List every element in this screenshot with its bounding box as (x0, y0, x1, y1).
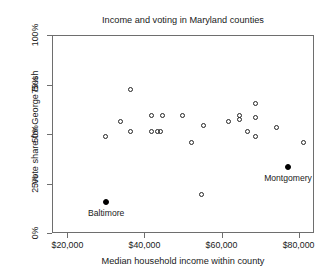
data-point (128, 129, 133, 134)
point-label-baltimore: Baltimore (88, 208, 124, 218)
data-point-baltimore (103, 199, 109, 205)
data-point (237, 117, 242, 122)
data-point (226, 119, 231, 124)
data-point (253, 101, 258, 106)
data-point (103, 134, 108, 139)
y-tick-mark (47, 184, 52, 185)
x-tick-mark (299, 233, 300, 238)
data-point-montgomery (285, 164, 291, 170)
x-tick-label: $20,000 (52, 240, 84, 250)
data-point (149, 129, 154, 134)
y-tick-mark (47, 35, 52, 36)
x-tick-mark (144, 233, 145, 238)
y-tick-mark (47, 233, 52, 234)
y-tick-label: 0% (0, 228, 44, 238)
x-tick-mark (67, 233, 68, 238)
data-points-layer: BaltimoreMontgomery (53, 36, 313, 232)
data-point (180, 113, 185, 118)
x-tick-label: $60,000 (206, 240, 238, 250)
data-point (118, 119, 123, 124)
x-tick-mark (222, 233, 223, 238)
data-point (149, 113, 154, 118)
data-point (199, 192, 204, 197)
x-tick-label: $80,000 (283, 240, 315, 250)
chart-figure: Income and voting in Maryland counties B… (0, 0, 330, 280)
y-axis-title: Vote share for George Bush (30, 38, 41, 218)
y-tick-mark (47, 134, 52, 135)
data-point (253, 134, 258, 139)
data-point (245, 129, 250, 134)
data-point (160, 113, 165, 118)
x-axis-title: Median household income within county (52, 256, 314, 267)
data-point (253, 115, 258, 120)
y-tick-mark (47, 85, 52, 86)
data-point (301, 140, 306, 145)
data-point (274, 125, 279, 130)
chart-title: Income and voting in Maryland counties (52, 15, 314, 26)
x-tick-label: $40,000 (129, 240, 161, 250)
point-label-montgomery: Montgomery (264, 173, 312, 183)
data-point (158, 129, 163, 134)
plot-area: BaltimoreMontgomery (52, 35, 314, 233)
data-point (128, 87, 133, 92)
data-point (201, 123, 206, 128)
data-point (189, 140, 194, 145)
